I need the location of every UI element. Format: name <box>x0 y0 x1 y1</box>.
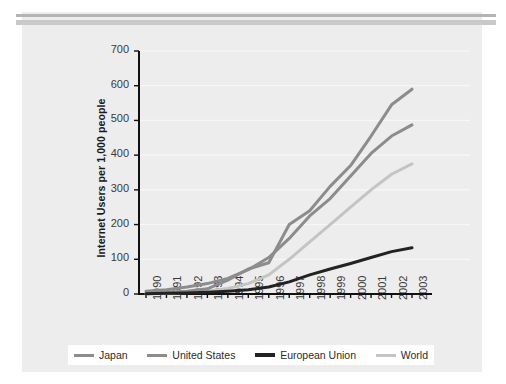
legend-item[interactable]: Japan <box>74 349 128 361</box>
legend-item[interactable]: World <box>376 349 428 361</box>
figure: Internet Users per 1,000 people 01002003… <box>0 0 506 384</box>
chart-legend: JapanUnited StatesEuropean UnionWorld <box>68 345 434 365</box>
legend-label: Japan <box>99 349 128 361</box>
legend-item[interactable]: United States <box>147 349 235 361</box>
legend-swatch <box>255 353 275 357</box>
legend-label: World <box>401 349 428 361</box>
line-chart: Internet Users per 1,000 people 01002003… <box>0 0 506 384</box>
series-line <box>146 164 412 294</box>
legend-swatch <box>147 354 167 357</box>
series-line <box>146 89 412 293</box>
legend-label: European Union <box>280 349 356 361</box>
legend-item[interactable]: European Union <box>255 349 356 361</box>
legend-label: United States <box>172 349 235 361</box>
legend-swatch <box>74 354 94 357</box>
legend-swatch <box>376 354 396 357</box>
chart-canvas <box>0 0 506 384</box>
